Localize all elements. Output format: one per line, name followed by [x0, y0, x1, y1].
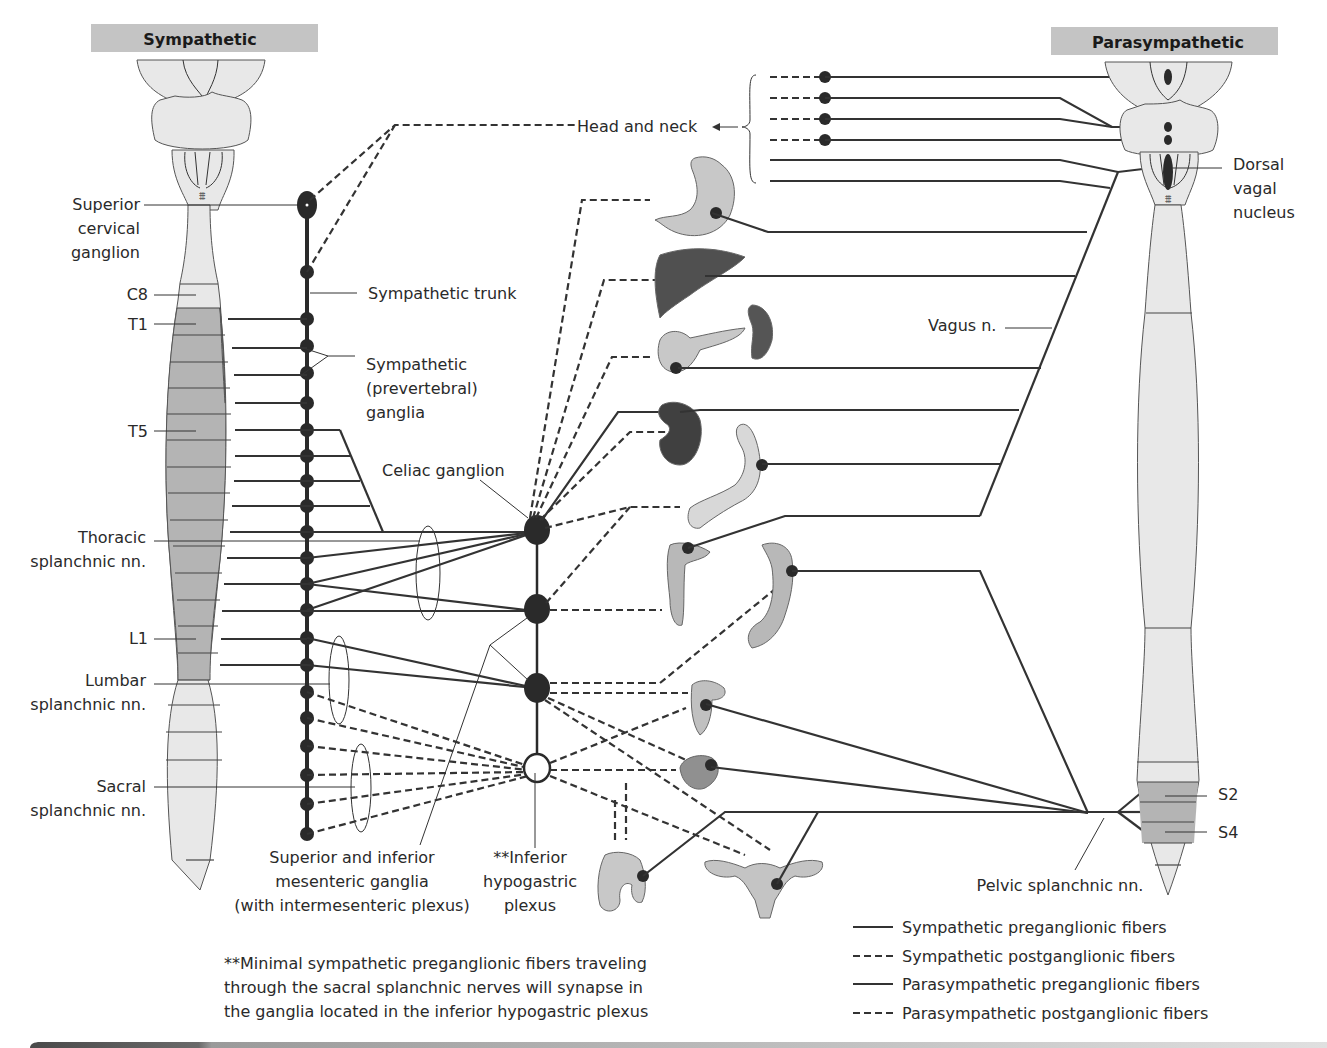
svg-text:**Minimal sympathetic pregangl: **Minimal sympathetic preganglionic fibe… — [224, 954, 647, 973]
svg-text:splanchnic nn.: splanchnic nn. — [30, 801, 146, 820]
label-head-and-neck: Head and neck — [577, 75, 756, 183]
sympathetic-trunk — [297, 191, 317, 841]
svg-text:through the sacral splanchnic: through the sacral splanchnic nerves wil… — [224, 978, 643, 997]
svg-text:Superior and inferior: Superior and inferior — [269, 848, 435, 867]
label-prevertebral-ganglia: Sympathetic (prevertebral) ganglia — [366, 355, 478, 422]
svg-text:T1: T1 — [127, 315, 148, 334]
right-spinal-cord — [1137, 205, 1199, 895]
parasympathetic-sacral — [643, 571, 1145, 884]
label-pelvic-splanchnic: Pelvic splanchnic nn. — [977, 818, 1144, 895]
inferior-hypogastric-plexus — [524, 754, 550, 782]
svg-text:nucleus: nucleus — [1233, 203, 1295, 222]
svg-text:Pelvic splanchnic nn.: Pelvic splanchnic nn. — [977, 876, 1144, 895]
sympathetic-header: Sympathetic — [91, 24, 318, 52]
label-sympathetic-trunk: Sympathetic trunk — [368, 284, 517, 303]
label-thoracic-splanchnic: Thoracic splanchnic nn. — [30, 528, 420, 571]
label-mesenteric-ganglia: Superior and inferior mesenteric ganglia… — [234, 618, 528, 915]
svg-text:splanchnic nn.: splanchnic nn. — [30, 552, 146, 571]
svg-text:Head and neck: Head and neck — [577, 117, 698, 136]
svg-text:Sacral: Sacral — [96, 777, 146, 796]
head-neck-postganglionic — [307, 125, 575, 272]
svg-text:Sympathetic trunk: Sympathetic trunk — [368, 284, 517, 303]
svg-text:T5: T5 — [127, 422, 148, 441]
svg-text:the ganglia located in the inf: the ganglia located in the inferior hypo… — [224, 1002, 648, 1021]
prevertebral-ganglia — [524, 515, 550, 782]
svg-text:Vagus n.: Vagus n. — [928, 316, 996, 335]
rami-lines — [220, 319, 535, 688]
svg-text:⩩: ⩩ — [1165, 192, 1172, 206]
label-vagus-n: Vagus n. — [928, 316, 1052, 335]
svg-text:Sympathetic: Sympathetic — [366, 355, 467, 374]
svg-text:S4: S4 — [1218, 823, 1238, 842]
svg-text:Dorsal: Dorsal — [1233, 155, 1284, 174]
legend-item-sympathetic-pre: Sympathetic preganglionic fibers — [853, 918, 1167, 937]
svg-text:Superior: Superior — [72, 195, 140, 214]
left-brainstem: ⩩ — [137, 60, 265, 210]
svg-text:Sympathetic: Sympathetic — [143, 30, 256, 49]
svg-text:⩩: ⩩ — [199, 189, 206, 203]
svg-text:Sympathetic postganglionic fib: Sympathetic postganglionic fibers — [902, 947, 1175, 966]
organ-stomach — [655, 157, 734, 236]
organ-uterus — [705, 860, 823, 918]
celiac-ganglion — [524, 515, 550, 545]
svg-text:(with intermesenteric plexus): (with intermesenteric plexus) — [234, 896, 469, 915]
svg-text:S2: S2 — [1218, 785, 1238, 804]
svg-text:ganglia: ganglia — [366, 403, 425, 422]
svg-text:hypogastric: hypogastric — [483, 872, 577, 891]
autonomic-nervous-system-diagram: Sympathetic Parasympathetic ⩩ — [0, 0, 1327, 1048]
celiac-postganglionic — [530, 200, 780, 855]
organ-liver — [655, 249, 745, 318]
svg-text:cervical: cervical — [78, 219, 140, 238]
organ-descending-colon — [748, 543, 798, 648]
svg-text:Parasympathetic preganglionic: Parasympathetic preganglionic fibers — [902, 975, 1200, 994]
svg-text:plexus: plexus — [504, 896, 556, 915]
svg-text:Sympathetic preganglionic fibe: Sympathetic preganglionic fibers — [902, 918, 1167, 937]
footnote: **Minimal sympathetic preganglionic fibe… — [224, 954, 648, 1021]
svg-text:(prevertebral): (prevertebral) — [366, 379, 478, 398]
label-celiac-ganglion: Celiac ganglion — [382, 461, 528, 518]
label-inferior-hypogastric-plexus: **Inferior hypogastric plexus — [483, 773, 577, 915]
legend-item-parasympathetic-post: Parasympathetic postganglionic fibers — [853, 1004, 1208, 1023]
svg-text:Parasympathetic: Parasympathetic — [1092, 33, 1244, 52]
svg-text:ganglion: ganglion — [71, 243, 140, 262]
right-brainstem: ⩩ — [1105, 62, 1232, 206]
organ-spleen — [748, 305, 772, 359]
organ-male-genitalia — [598, 852, 649, 911]
svg-text:**Inferior: **Inferior — [493, 848, 567, 867]
svg-text:splanchnic nn.: splanchnic nn. — [30, 695, 146, 714]
organ-bladder — [680, 756, 718, 789]
legend-item-sympathetic-post: Sympathetic postganglionic fibers — [853, 947, 1175, 966]
bottom-bar — [30, 1042, 1327, 1048]
svg-text:L1: L1 — [129, 629, 148, 648]
inferior-mesenteric-ganglion — [524, 673, 550, 703]
svg-text:Lumbar: Lumbar — [85, 671, 146, 690]
svg-text:mesenteric ganglia: mesenteric ganglia — [275, 872, 429, 891]
organ-ascending-colon — [667, 542, 710, 625]
svg-text:Thoracic: Thoracic — [77, 528, 146, 547]
svg-text:C8: C8 — [127, 285, 148, 304]
legend: Sympathetic preganglionic fibers Sympath… — [853, 918, 1208, 1023]
legend-item-parasympathetic-pre: Parasympathetic preganglionic fibers — [853, 975, 1200, 994]
svg-text:Parasympathetic postganglionic: Parasympathetic postganglionic fibers — [902, 1004, 1208, 1023]
superior-mesenteric-ganglion — [524, 594, 550, 624]
svg-text:Celiac ganglion: Celiac ganglion — [382, 461, 505, 480]
parasympathetic-header: Parasympathetic — [1051, 27, 1278, 55]
svg-text:vagal: vagal — [1233, 179, 1277, 198]
sacral-postganglionic — [307, 692, 528, 834]
